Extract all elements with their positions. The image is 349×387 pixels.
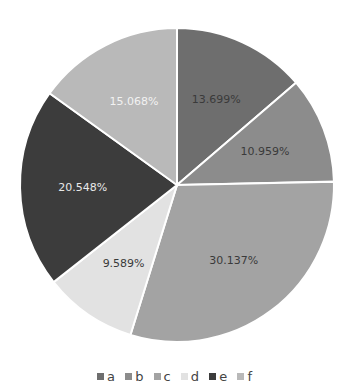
legend-label: d [191, 369, 199, 384]
legend-label: b [135, 369, 143, 384]
legend-label: c [164, 369, 171, 384]
legend-label: e [219, 369, 227, 384]
legend-item-b[interactable]: b [125, 369, 143, 384]
legend-swatch-icon [97, 373, 104, 380]
slice-label-a: 13.699% [192, 93, 241, 106]
slice-label-e: 20.548% [58, 181, 107, 194]
slice-label-b: 10.959% [240, 145, 289, 158]
legend-item-d[interactable]: d [181, 369, 199, 384]
legend-swatch-icon [154, 373, 161, 380]
legend-label: a [107, 369, 115, 384]
legend-swatch-icon [125, 373, 132, 380]
legend-item-a[interactable]: a [97, 369, 115, 384]
legend-item-c[interactable]: c [154, 369, 171, 384]
slice-label-f: 15.068% [110, 95, 159, 108]
legend-item-f[interactable]: f [237, 369, 252, 384]
legend: a b c d e f [0, 369, 349, 384]
legend-item-e[interactable]: e [209, 369, 227, 384]
slice-label-c: 30.137% [209, 254, 258, 267]
legend-label: f [247, 369, 252, 384]
legend-swatch-icon [237, 373, 244, 380]
legend-swatch-icon [209, 373, 216, 380]
legend-swatch-icon [181, 373, 188, 380]
pie-chart: 13.699%10.959%30.137%9.589%20.548%15.068… [0, 0, 349, 360]
slice-label-d: 9.589% [103, 257, 145, 270]
